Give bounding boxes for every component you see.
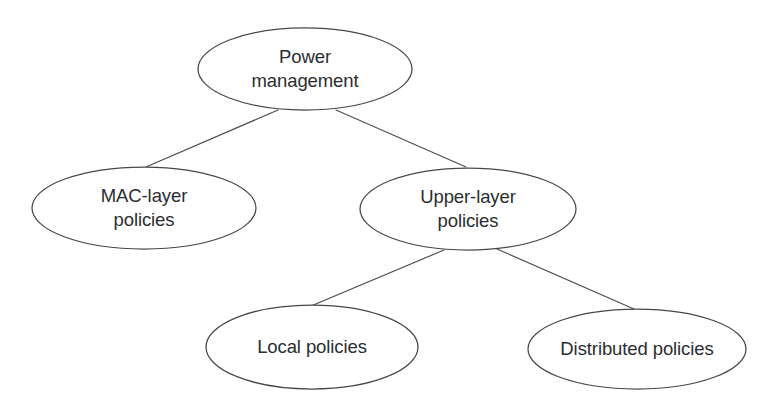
edge-power-management-to-mac-layer-policies — [146, 110, 278, 167]
diagram-vector-layer — [0, 0, 765, 410]
node-shape-distributed-policies[interactable] — [528, 309, 746, 389]
edge-upper-layer-policies-to-distributed-policies — [497, 249, 634, 309]
tree-diagram-canvas: Power management MAC-layer policies Uppe… — [0, 0, 765, 410]
node-shape-upper-layer-policies[interactable] — [360, 168, 576, 250]
node-shape-group — [32, 28, 746, 389]
node-shape-power-management[interactable] — [198, 28, 412, 110]
node-shape-mac-layer-policies[interactable] — [32, 167, 256, 249]
node-shape-local-policies[interactable] — [206, 305, 418, 389]
edge-upper-layer-policies-to-local-policies — [311, 250, 444, 306]
edge-power-management-to-upper-layer-policies — [336, 110, 466, 167]
